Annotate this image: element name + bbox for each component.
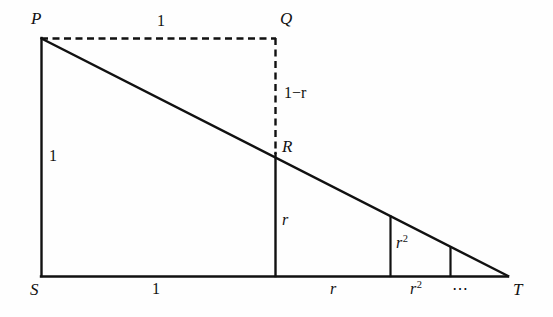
geometric-series-diagram: P Q R S T 1 1−r 1 r r2 1 r r2 ⋯ <box>0 0 553 317</box>
measure-base-first: 1 <box>152 281 160 297</box>
measure-left-side: 1 <box>49 148 57 164</box>
measure-base-second: r <box>330 281 336 297</box>
measure-r-height-text: r <box>282 211 288 228</box>
measure-top-side: 1 <box>157 13 165 29</box>
measure-r-height: r <box>282 212 288 228</box>
diagram-canvas <box>0 0 553 317</box>
vertex-label-S: S <box>30 281 39 298</box>
measure-r2-height-base: r <box>396 234 402 251</box>
measure-base-third-exp: 2 <box>417 279 422 290</box>
vertex-label-P: P <box>31 10 41 27</box>
measure-base-third-base: r <box>410 280 416 297</box>
vertex-label-R: R <box>282 138 292 155</box>
vertex-label-T: T <box>513 281 522 298</box>
measure-r2-height: r2 <box>396 235 408 251</box>
measure-q-to-r: 1−r <box>284 85 306 101</box>
measure-base-ellipsis: ⋯ <box>452 281 470 297</box>
measure-base-third: r2 <box>410 281 422 297</box>
measure-r2-height-exp: 2 <box>403 233 408 244</box>
vertex-label-Q: Q <box>280 10 292 27</box>
measure-base-second-text: r <box>330 280 336 297</box>
